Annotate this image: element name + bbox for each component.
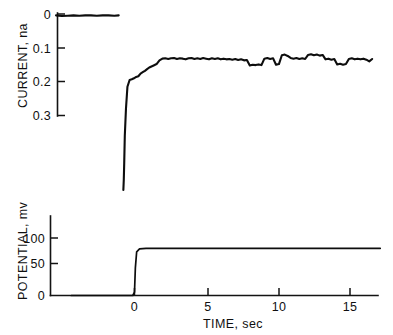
potential-panel: 100 50 0 0 5 10 15 POTENTIAL, mv TIME, s… <box>16 201 380 331</box>
current-ytick-label-0: 0 <box>44 8 51 22</box>
potential-step-trace <box>71 248 380 295</box>
current-baseline-trace <box>56 15 119 16</box>
potential-y-axis-label: POTENTIAL, mv <box>16 201 30 300</box>
current-ytick-label-3: 0.3 <box>33 109 51 123</box>
current-panel: 0 0.1 0.2 0.3 CURRENT, na <box>16 8 372 190</box>
chart-svg: 0 0.1 0.2 0.3 CURRENT, na 100 <box>0 0 393 335</box>
current-y-axis-label: CURRENT, na <box>16 23 30 108</box>
current-ytick-label-1: 0.1 <box>33 42 51 56</box>
potential-ytick-label-50: 50 <box>30 257 45 271</box>
potential-xtick-label-15: 15 <box>343 300 358 314</box>
figure-container: 0 0.1 0.2 0.3 CURRENT, na 100 <box>0 0 393 335</box>
potential-xtick-label-10: 10 <box>272 300 287 314</box>
time-x-axis-label: TIME, sec <box>203 317 263 331</box>
potential-xtick-label-5: 5 <box>204 300 211 314</box>
current-ytick-label-2: 0.2 <box>33 75 51 89</box>
potential-ytick-label-0: 0 <box>38 289 45 303</box>
current-response-trace <box>123 54 372 190</box>
potential-xtick-label-0: 0 <box>131 300 138 314</box>
